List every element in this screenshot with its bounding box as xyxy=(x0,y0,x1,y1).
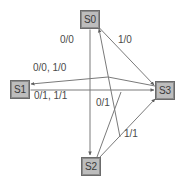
state-node-s3-label: S3 xyxy=(156,82,174,99)
edge-s3-s1 xyxy=(31,77,155,86)
edge-label-s3-s1: 0/0, 1/0 xyxy=(33,63,66,73)
edge-label-s2-s3-a: 0/1 xyxy=(96,98,110,108)
state-diagram: S0 S1 S2 S3 0/0 1/0 0/0, 1/0 0/1, 1/1 0/… xyxy=(0,0,183,188)
state-node-s2-label: S2 xyxy=(82,158,100,175)
state-node-s3[interactable]: S3 xyxy=(155,81,175,100)
state-node-s1-label: S1 xyxy=(11,81,29,98)
state-node-s1[interactable]: S1 xyxy=(10,80,30,99)
state-node-s0[interactable]: S0 xyxy=(80,10,100,29)
edge-s3-s0 xyxy=(99,29,120,137)
edge-label-s1-s3: 0/1, 1/1 xyxy=(34,91,67,101)
edge-label-s2-s3-b: 1/1 xyxy=(124,129,138,139)
state-node-s2[interactable]: S2 xyxy=(81,157,101,176)
state-node-s0-label: S0 xyxy=(81,11,99,28)
edge-label-s0-s3: 1/0 xyxy=(118,35,132,45)
edge-label-s0-s2: 0/0 xyxy=(60,35,74,45)
